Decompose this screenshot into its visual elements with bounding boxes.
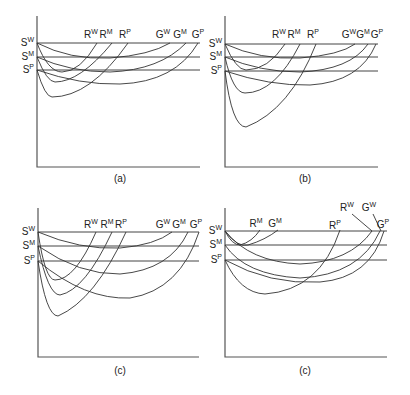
curve-6 [37, 43, 198, 84]
curve-label-rw: RW [84, 28, 98, 40]
level-label-sm: SM [209, 50, 222, 62]
level-label-sm: SM [22, 239, 35, 251]
curve-5 [38, 232, 188, 274]
panel-c1: SWSMSPRWRMRPGWGMGP(c) [22, 208, 203, 376]
curve-label-rm: RM [99, 28, 112, 40]
curve-label-gw: GW [362, 201, 377, 213]
curve-4 [37, 43, 170, 58]
level-label-sp: SP [23, 63, 35, 75]
level-label-sw: SW [209, 224, 223, 236]
level-label-sw: SW [21, 36, 35, 48]
curve-label-gw: GW [342, 28, 357, 40]
curve-label-gm: GM [172, 218, 186, 230]
panel-caption: (b) [299, 173, 311, 184]
curve-label-gp: GP [192, 28, 205, 40]
curve-label-rw: RW [84, 218, 98, 230]
curve-1 [38, 232, 96, 280]
panel-caption: (c) [114, 365, 126, 376]
curve-label-rm: RM [100, 218, 113, 230]
curve-4 [225, 44, 355, 58]
curve-6 [38, 232, 199, 298]
curve-3 [225, 231, 372, 264]
level-label-sp: SP [24, 254, 36, 266]
curve-label-gm: GM [173, 28, 187, 40]
curve-label-rp: RP [115, 218, 127, 230]
level-label-sp: SP [211, 64, 223, 76]
panel-b: SWSMSPRWRMRPGWGMGP(b) [209, 16, 384, 184]
curve-label-rm: RM [249, 217, 262, 229]
level-label-sm: SM [21, 50, 34, 62]
curve-label-gp: GP [190, 218, 203, 230]
curve-label-gp: GP [371, 28, 384, 40]
leader-line [352, 214, 372, 231]
curve-label-gm: GM [356, 28, 370, 40]
level-label-sp: SP [211, 253, 223, 265]
curve-2 [37, 43, 112, 82]
curve-6 [225, 231, 384, 282]
curve-label-rp: RP [307, 28, 319, 40]
figure-canvas: SWSMSPRWRMRPGWGMGP(a)SWSMSPRWRMRPGWGMGP(… [0, 0, 410, 395]
curve-label-rw: RW [340, 201, 354, 213]
curve-label-gw: GW [156, 28, 171, 40]
curve-label-rp: RP [119, 28, 131, 40]
axes [225, 16, 378, 167]
curve-3 [225, 44, 316, 127]
curve-label-gp: GP [377, 218, 390, 230]
curve-label-rm: RM [287, 28, 300, 40]
curve-label-gw: GW [156, 218, 171, 230]
curve-label-gm: GM [268, 217, 282, 229]
level-label-sw: SW [22, 225, 36, 237]
panel-a: SWSMSPRWRMRPGWGMGP(a) [21, 16, 205, 184]
curve-2 [225, 230, 278, 245]
axes [38, 208, 199, 357]
curve-label-rp: RP [329, 219, 341, 231]
level-label-sw: SW [209, 37, 223, 49]
level-label-sm: SM [209, 238, 222, 250]
panel-caption: (c) [299, 365, 311, 376]
panel-c2: SWSMSPRMGMRPRWGWGP(c) [209, 201, 390, 376]
curve-label-rw: RW [272, 28, 286, 40]
panel-caption: (a) [114, 173, 126, 184]
